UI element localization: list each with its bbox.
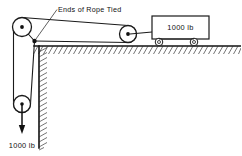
top-left-pulley: [13, 18, 32, 37]
physics-diagram-canvas: 1000 lb 1000 lb Ends of Rope Tied: [0, 0, 241, 156]
wall-group: [39, 46, 47, 150]
ground-surface-group: [34, 46, 242, 54]
rope-return-strand: [35, 41, 129, 43]
rope-ends-leader-line: [35, 10, 58, 42]
rope-system-group: [13, 18, 136, 113]
right-pulley-hub: [126, 32, 130, 36]
rope-ends-label: Ends of Rope Tied: [58, 5, 121, 14]
rope-ends-callout: Ends of Rope Tied: [35, 5, 122, 41]
right-pulley: [120, 26, 153, 43]
hanging-load-arrow-head: [19, 125, 25, 134]
top-left-pulley-hub: [20, 25, 24, 29]
hanging-load-group: 1000 lb: [9, 104, 35, 150]
rope-vertical-right-strand: [31, 41, 35, 104]
pulley-system-diagram: 1000 lb 1000 lb Ends of Rope Tied: [0, 0, 241, 156]
rope-top-strand: [22, 18, 128, 26]
cart-wheel-right-hub: [193, 41, 196, 44]
cart-group: 1000 lb: [152, 16, 209, 46]
cart-wheel-left-hub: [158, 41, 161, 44]
hanging-weight-label: 1000 lb: [9, 141, 35, 150]
wall-hatching: [39, 48, 47, 151]
ground-hatching: [34, 46, 242, 54]
cart-weight-label: 1000 lb: [167, 23, 193, 32]
